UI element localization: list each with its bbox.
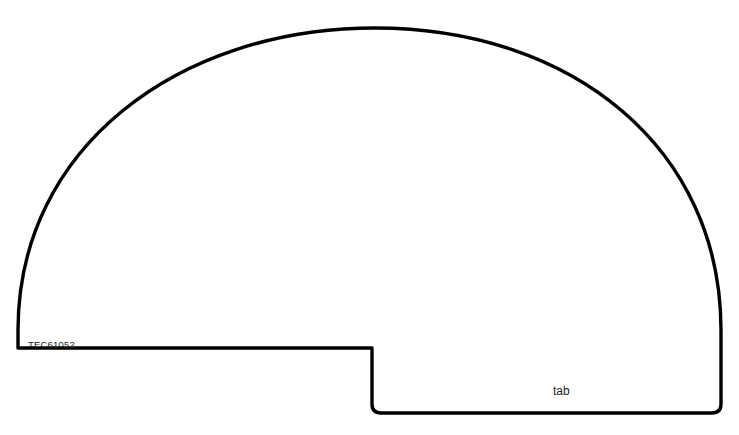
drawing-canvas: clipped header text TEC61052 tab — [0, 0, 739, 435]
part-number-label: TEC61052 — [28, 340, 75, 350]
part-outline-path — [18, 28, 721, 413]
part-outline-svg — [0, 0, 739, 435]
tab-label: tab — [553, 385, 570, 397]
